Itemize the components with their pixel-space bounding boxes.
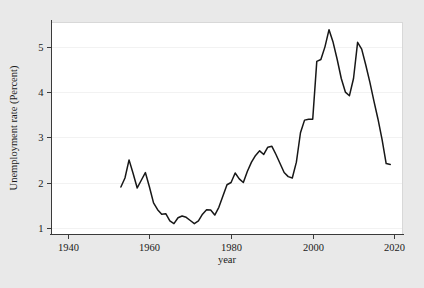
y-axis-title: Unemployment rate (Percent) [8, 65, 20, 190]
plot-area-background [51, 22, 403, 234]
y-tick-label: 2 [38, 178, 43, 189]
y-tick-label: 4 [38, 87, 44, 98]
unemployment-rate-line-chart: 12345 19401960198020002020 year Unemploy… [0, 0, 424, 288]
x-tick-label: 1980 [221, 242, 242, 253]
y-tick-label: 3 [38, 132, 43, 143]
chart-canvas: 12345 19401960198020002020 year Unemploy… [0, 0, 424, 288]
figure-container: 12345 19401960198020002020 year Unemploy… [0, 0, 424, 288]
y-tick-label: 5 [38, 42, 43, 53]
y-tick-label: 1 [38, 223, 43, 234]
x-axis-title: year [218, 254, 237, 265]
x-tick-label: 2020 [384, 242, 405, 253]
x-tick-label: 1960 [139, 242, 160, 253]
x-tick-label: 1940 [58, 242, 79, 253]
x-tick-label: 2000 [303, 242, 324, 253]
